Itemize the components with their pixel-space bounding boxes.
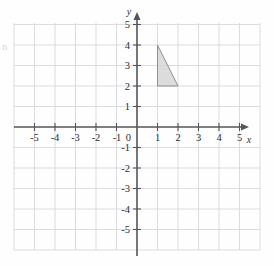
graph-canvas: -5 -4 -3 -2 -1 1 2 3 4 5 5 4 3 2 1 -1 -2… (0, 0, 274, 266)
y-axis-name: y (126, 6, 132, 17)
x-axis-arrowhead (241, 124, 249, 131)
margin-glyph: n (2, 40, 8, 52)
coordinate-plane-figure: -5 -4 -3 -2 -1 1 2 3 4 5 5 4 3 2 1 -1 -2… (0, 0, 274, 266)
x-tick-label: -5 (30, 132, 39, 143)
y-tick-label: -3 (121, 183, 130, 194)
y-tick-label: -2 (121, 163, 130, 174)
y-tick-label: 5 (125, 19, 130, 30)
x-tick-label: -4 (51, 132, 60, 143)
y-tick-label: -1 (121, 142, 130, 153)
x-tick-label: 1 (155, 132, 160, 143)
x-tick-label: -3 (71, 132, 80, 143)
y-tick-label: 4 (125, 40, 131, 51)
y-tick-label: 2 (125, 81, 130, 92)
x-tick-label: 2 (175, 132, 180, 143)
x-tick-label: 3 (196, 132, 201, 143)
origin-label: 0 (126, 132, 131, 143)
y-tick-label: 3 (125, 60, 130, 71)
x-axis-name: x (246, 134, 252, 145)
y-tick-label: -4 (121, 204, 130, 215)
y-axis-arrowhead (134, 12, 141, 20)
y-tick-label: -5 (121, 224, 130, 235)
x-tick-label: -1 (113, 132, 122, 143)
x-tick-label: 5 (237, 132, 242, 143)
x-tick-label: 4 (216, 132, 222, 143)
x-tick-label: -2 (92, 132, 101, 143)
y-tick-label: 1 (125, 101, 130, 112)
x-axis-tick-labels: -5 -4 -3 -2 -1 1 2 3 4 5 (30, 132, 242, 143)
